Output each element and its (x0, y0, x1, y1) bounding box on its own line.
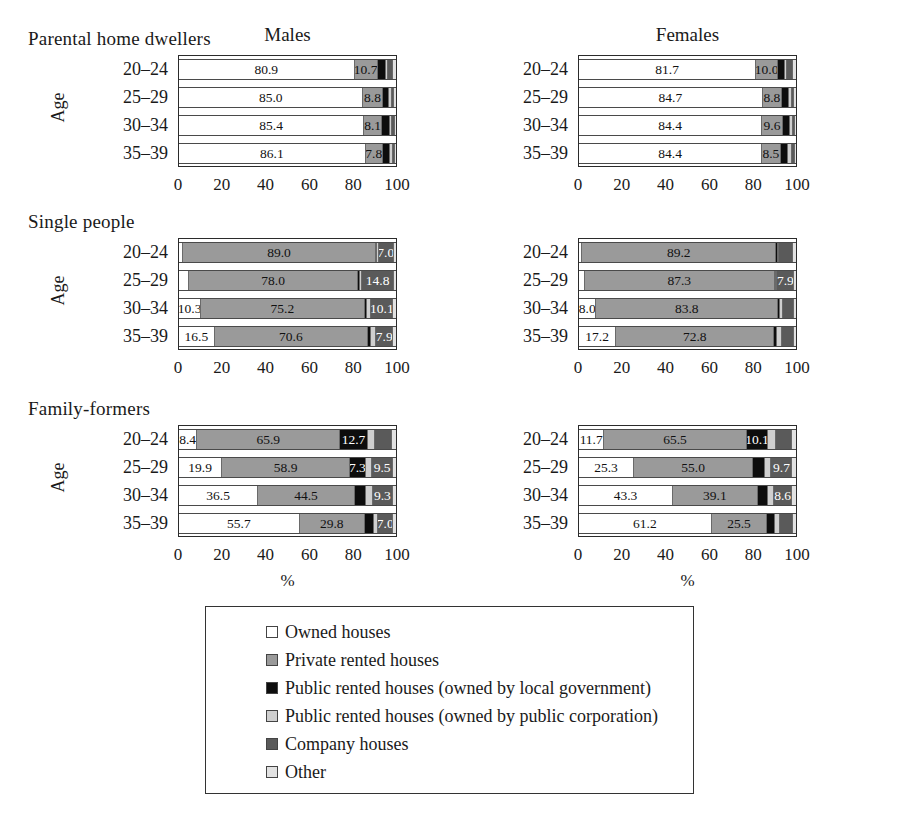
bar-segment-other (394, 243, 396, 262)
category-label: 20–24 (86, 59, 168, 80)
segment-value: 70.6 (279, 330, 303, 344)
segment-value: 78.0 (261, 274, 285, 288)
bar-segment-company (375, 430, 392, 449)
bar-segment-company: 9.5 (372, 458, 393, 477)
bar-segment-company: 7.9 (777, 271, 794, 290)
category-label: 25–29 (86, 270, 168, 291)
segment-value: 8.4 (179, 433, 196, 447)
bar-segment-public-local-gov (753, 458, 765, 477)
plot-area-1: 81.710.084.78.884.49.684.48.5 (578, 55, 797, 167)
category-label: 30–34 (86, 115, 168, 136)
bar-segment-owned: 84.7 (579, 88, 763, 107)
bar-segment-public-local-gov (378, 60, 386, 79)
bar-segment-owned: 8.4 (179, 430, 197, 449)
x-tick-label: 80 (745, 545, 762, 565)
bar-segment-other (794, 327, 796, 346)
segment-value: 89.0 (267, 246, 291, 260)
segment-value: 8.8 (763, 91, 780, 105)
segment-value: 9.5 (374, 461, 391, 475)
bar-3-0: 89.2 (579, 242, 796, 263)
bar-segment-private-rented: 75.2 (201, 299, 364, 318)
bar-segment-other (394, 271, 396, 290)
legend-item-private-rented: Private rented houses (266, 646, 658, 674)
bar-segment-other (794, 271, 796, 290)
segment-value: 8.0 (579, 302, 596, 316)
bar-segment-other (392, 430, 396, 449)
segment-value: 19.9 (188, 461, 212, 475)
x-tick-label: 60 (301, 358, 318, 378)
x-tick-label: 60 (701, 175, 718, 195)
bar-segment-private-rented: 8.5 (762, 144, 780, 163)
x-tick-label: 60 (301, 175, 318, 195)
panel-title-females: Females (628, 24, 748, 46)
bar-segment-other (795, 116, 796, 135)
bar-segment-other (395, 116, 396, 135)
bar-segment-private-rented: 8.8 (763, 88, 782, 107)
legend-swatch-public-corp (266, 710, 278, 722)
bar-segment-other (794, 88, 796, 107)
legend-item-company: Company houses (266, 730, 658, 758)
bar-segment-public-local-gov (365, 514, 375, 533)
bar-segment-private-rented: 83.8 (596, 299, 778, 318)
bar-segment-owned: 16.5 (179, 327, 215, 346)
segment-value: 7.8 (366, 147, 382, 161)
bar-segment-owned: 17.2 (579, 327, 616, 346)
bar-segment-public-local-gov (783, 116, 790, 135)
segment-value: 7.3 (350, 461, 366, 475)
bar-segment-private-rented: 89.2 (582, 243, 776, 262)
x-tick-label: 20 (613, 175, 630, 195)
bar-segment-owned: 10.3 (179, 299, 201, 318)
bar-segment-private-rented: 25.5 (712, 514, 767, 533)
y-axis-title: Age (48, 78, 69, 138)
x-tick-label: 0 (174, 175, 183, 195)
group-title-0: Parental home dwellers (28, 28, 211, 50)
bar-segment-private-rented: 72.8 (616, 327, 774, 346)
plot-area-3: 89.287.37.98.083.817.272.8 (578, 238, 797, 350)
legend-item-owned: Owned houses (266, 618, 658, 646)
category-label: 35–39 (486, 143, 568, 164)
segment-value: 55.0 (681, 461, 705, 475)
segment-value: 7.9 (777, 274, 794, 288)
bar-segment-owned: 8.0 (579, 299, 596, 318)
bar-segment-other (793, 243, 796, 262)
segment-value: 10.0 (756, 63, 778, 77)
x-tick-label: 100 (384, 545, 410, 565)
x-tick-label: 60 (701, 545, 718, 565)
bar-segment-company: 9.7 (771, 458, 792, 477)
x-tick-label: 60 (701, 358, 718, 378)
x-tick-label: 80 (345, 175, 362, 195)
segment-value: 85.0 (259, 91, 283, 105)
segment-value: 10.1 (747, 433, 769, 447)
bar-segment-company: 7.0 (378, 514, 393, 533)
bar-segment-owned: 84.4 (579, 144, 762, 163)
x-tick-label: 40 (257, 358, 274, 378)
bar-segment-company: 9.3 (373, 486, 393, 505)
segment-value: 61.2 (633, 517, 657, 531)
bar-segment-public-corp (768, 430, 775, 449)
bar-segment-public-local-gov (758, 486, 768, 505)
legend-list: Owned housesPrivate rented housesPublic … (266, 618, 658, 786)
bar-segment-owned: 86.1 (179, 144, 366, 163)
legend-label: Private rented houses (285, 650, 439, 671)
segment-value: 17.2 (585, 330, 609, 344)
x-tick-label: 40 (657, 358, 674, 378)
segment-value: 75.2 (271, 302, 295, 316)
bar-segment-private-rented: 44.5 (258, 486, 355, 505)
bar-5-3: 61.225.5 (579, 513, 796, 534)
bar-segment-other (393, 486, 396, 505)
category-label: 35–39 (86, 513, 168, 534)
bar-segment-company: 7.0 (379, 243, 394, 262)
plot-area-2: 89.07.078.014.810.375.210.116.570.67.9 (178, 238, 397, 350)
bar-2-1: 78.014.8 (179, 270, 396, 291)
segment-value: 9.3 (374, 489, 391, 503)
bar-segment-owned: 25.3 (579, 458, 634, 477)
segment-value: 10.1 (371, 302, 393, 316)
segment-value: 43.3 (614, 489, 638, 503)
segment-value: 9.6 (764, 119, 781, 133)
x-tick-label: 20 (213, 175, 230, 195)
segment-value: 72.8 (683, 330, 707, 344)
bar-2-2: 10.375.210.1 (179, 298, 396, 319)
bar-segment-private-rented: 10.0 (756, 60, 778, 79)
bar-5-1: 25.355.09.7 (579, 457, 796, 478)
x-tick-label: 80 (345, 358, 362, 378)
